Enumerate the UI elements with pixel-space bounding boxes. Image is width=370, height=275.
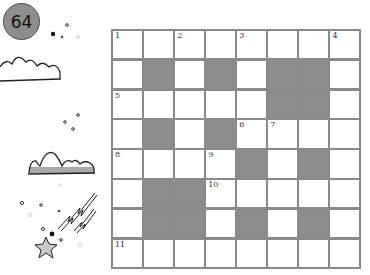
clue-number: 3 — [239, 32, 244, 40]
crossword-cell[interactable] — [113, 210, 142, 237]
crossword-block — [299, 150, 328, 177]
decorations — [0, 0, 110, 275]
crossword-cell[interactable] — [144, 91, 173, 118]
crossword-cell[interactable]: 7 — [268, 120, 297, 147]
crossword-cell[interactable] — [175, 61, 204, 88]
crossword-cell[interactable] — [206, 240, 235, 267]
crossword-cell[interactable] — [237, 61, 266, 88]
crossword-cell[interactable] — [299, 31, 328, 58]
crossword-cell[interactable] — [268, 210, 297, 237]
crossword-cell[interactable]: 10 — [206, 180, 235, 207]
crossword-cell[interactable] — [206, 210, 235, 237]
crossword-cell[interactable] — [206, 31, 235, 58]
crossword-cell[interactable] — [268, 150, 297, 177]
crossword-cell[interactable] — [330, 61, 359, 88]
crossword-cell[interactable] — [330, 240, 359, 267]
clue-number: 7 — [270, 121, 275, 129]
crossword-block — [144, 120, 173, 147]
clue-number: 11 — [115, 241, 125, 249]
crossword-cell[interactable] — [330, 180, 359, 207]
crossword-block — [175, 210, 204, 237]
crossword-cell[interactable] — [330, 120, 359, 147]
clue-number: 8 — [115, 151, 120, 159]
clue-number: 9 — [208, 151, 213, 159]
dot-icon — [51, 32, 55, 36]
crossword-block — [144, 180, 173, 207]
crossword-cell[interactable] — [175, 91, 204, 118]
crossword-cell[interactable] — [268, 31, 297, 58]
crossword-block — [268, 61, 297, 88]
shooting-star-icon — [35, 193, 97, 258]
crossword-cell[interactable] — [113, 120, 142, 147]
crossword-block — [206, 61, 235, 88]
crossword-cell[interactable] — [299, 120, 328, 147]
clue-number: 10 — [208, 181, 218, 189]
crossword-cell[interactable]: 4 — [330, 31, 359, 58]
crossword-cell[interactable]: 2 — [175, 31, 204, 58]
crossword-block — [237, 210, 266, 237]
crossword-cell[interactable] — [175, 150, 204, 177]
crossword-cell[interactable] — [237, 180, 266, 207]
crossword-cell[interactable] — [237, 240, 266, 267]
crossword-cell[interactable] — [330, 150, 359, 177]
crossword-cell[interactable] — [299, 240, 328, 267]
crossword-cell[interactable]: 1 — [113, 31, 142, 58]
crossword-cell[interactable] — [268, 180, 297, 207]
crossword-block — [175, 180, 204, 207]
crossword-block — [206, 120, 235, 147]
crossword-cell[interactable]: 3 — [237, 31, 266, 58]
crossword-block — [268, 91, 297, 118]
cloud-filled-icon — [28, 153, 95, 175]
cloud-outline-icon — [0, 57, 60, 81]
crossword-cell[interactable] — [113, 61, 142, 88]
clue-number: 2 — [177, 32, 182, 40]
crossword-block — [237, 150, 266, 177]
crossword-block — [144, 61, 173, 88]
crossword-block — [299, 91, 328, 118]
crossword-cell[interactable] — [113, 180, 142, 207]
crossword-cell[interactable] — [330, 210, 359, 237]
crossword-cell[interactable]: 8 — [113, 150, 142, 177]
crossword-cell[interactable]: 11 — [113, 240, 142, 267]
crossword-block — [299, 210, 328, 237]
clue-number: 6 — [239, 121, 244, 129]
crossword-cell[interactable] — [206, 91, 235, 118]
crossword-cell[interactable] — [144, 150, 173, 177]
crossword-block — [144, 210, 173, 237]
crossword-cell[interactable] — [237, 91, 266, 118]
crossword-cell[interactable]: 9 — [206, 150, 235, 177]
crossword-grid: 1234567891011 — [111, 29, 361, 269]
crossword-cell[interactable] — [175, 240, 204, 267]
clue-number: 5 — [115, 92, 120, 100]
crossword-cell[interactable] — [268, 240, 297, 267]
clue-number: 1 — [115, 32, 120, 40]
crossword-block — [299, 61, 328, 88]
crossword-cell[interactable] — [330, 91, 359, 118]
crossword-cell[interactable] — [299, 180, 328, 207]
clue-number: 4 — [332, 32, 337, 40]
crossword-cell[interactable]: 6 — [237, 120, 266, 147]
crossword-cell[interactable] — [175, 120, 204, 147]
crossword-cell[interactable]: 5 — [113, 91, 142, 118]
crossword-cell[interactable] — [144, 240, 173, 267]
crossword-cell[interactable] — [144, 31, 173, 58]
